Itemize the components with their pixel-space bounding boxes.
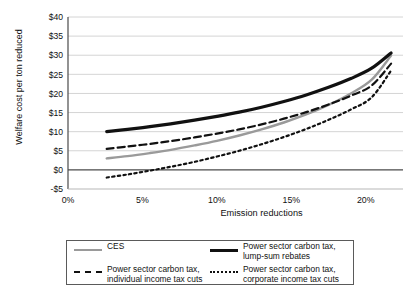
legend-swatch-solid-gray-icon (74, 244, 102, 253)
x-tick-label: 15% (283, 195, 301, 205)
x-tick-label: 0% (62, 195, 75, 205)
y-tick-label: $30 (49, 50, 64, 60)
legend-item-lump-sum-rebates: Power sector carbon tax, lump-sum rebate… (210, 241, 348, 261)
legend-item-corporate-income-tax-cuts: Power sector carbon tax, corporate incom… (210, 264, 348, 284)
legend-label-lump-sum-rebates: Power sector carbon tax, lump-sum rebate… (243, 241, 348, 261)
y-tick-label: $15 (49, 108, 64, 118)
plot-svg: -$5$0$5$10$15$20$25$30$35$400%5%10%15%20… (0, 0, 419, 232)
legend-label-ces: CES (107, 241, 124, 251)
y-tick-label: $35 (49, 31, 64, 41)
x-tick-label: 10% (208, 195, 226, 205)
y-tick-label: -$5 (51, 184, 64, 194)
y-tick-label: $40 (49, 12, 64, 22)
x-tick-label: 5% (136, 195, 149, 205)
y-tick-label: $5 (53, 146, 63, 156)
y-tick-label: $0 (53, 165, 63, 175)
y-tick-label: $25 (49, 70, 64, 80)
x-tick-label: 20% (357, 195, 375, 205)
legend-swatch-solid-black-icon (210, 244, 238, 253)
y-tick-label: $20 (49, 89, 64, 99)
legend-item-ces: CES (74, 241, 210, 253)
legend-label-individual-income-tax-cuts: Power sector carbon tax, individual inco… (107, 264, 202, 284)
legend-swatch-dotted-icon (210, 267, 238, 276)
chart-figure: Welfare cost per ton reduced -$5$0$5$10$… (0, 0, 419, 300)
series-line (107, 56, 391, 159)
series-line (107, 71, 391, 178)
legend-swatch-dashed-icon (74, 267, 102, 276)
chart-legend: CES Power sector carbon tax, lump-sum re… (66, 240, 354, 285)
x-axis-label-container: Emission reductions (0, 208, 419, 218)
legend-item-individual-income-tax-cuts: Power sector carbon tax, individual inco… (74, 264, 210, 284)
series-line (107, 53, 391, 132)
y-tick-label: $10 (49, 127, 64, 137)
x-axis-label: Emission reductions (220, 208, 302, 218)
plot-area-container: -$5$0$5$10$15$20$25$30$35$400%5%10%15%20… (0, 0, 419, 232)
legend-label-corporate-income-tax-cuts: Power sector carbon tax, corporate incom… (243, 264, 339, 284)
series-line (107, 64, 391, 149)
